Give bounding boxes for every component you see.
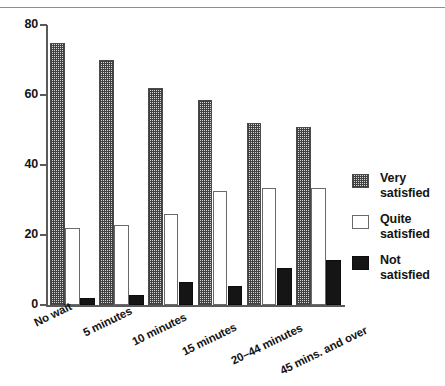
y-axis-tick: [40, 234, 47, 236]
y-axis-label-wrap: 60: [0, 88, 38, 101]
x-axis-tick-label: 10 minutes: [131, 312, 189, 348]
x-axis-tick-label: 5 minutes: [82, 305, 134, 338]
bar-quite-satisfied: [262, 188, 277, 305]
y-axis-tick: [40, 164, 47, 166]
legend-label-line2: satisfied: [380, 227, 430, 242]
bar-very-satisfied: [50, 43, 65, 306]
y-axis-tick: [40, 304, 47, 306]
y-axis-tick: [40, 24, 47, 26]
legend-swatch-not-satisfied: [352, 256, 369, 270]
bar-not-satisfied: [277, 268, 292, 305]
x-axis-tick-label: 15 minutes: [180, 321, 238, 357]
bar-very-satisfied: [198, 100, 213, 305]
bar-very-satisfied: [296, 127, 311, 306]
y-axis-tick-label: 20: [8, 228, 38, 241]
y-axis-tick-label: 60: [8, 88, 38, 101]
legend-label-line2: satisfied: [380, 268, 430, 283]
y-axis-label-wrap: 40: [0, 158, 38, 171]
legend-item-not-satisfied[interactable]: Not satisfied: [352, 254, 442, 286]
bar-quite-satisfied: [213, 191, 228, 305]
legend-label-line1: Not: [380, 253, 430, 268]
legend-swatch-quite-satisfied: [352, 215, 369, 229]
legend-label-line1: Very: [380, 171, 430, 186]
bar-quite-satisfied: [114, 225, 129, 306]
y-axis-tick-label: 40: [8, 158, 38, 171]
legend-swatch-very-satisfied: [352, 174, 369, 188]
bar-not-satisfied: [326, 260, 341, 306]
bar-quite-satisfied: [164, 214, 179, 305]
y-axis-label-wrap: 80: [0, 18, 38, 31]
bar-quite-satisfied: [311, 188, 326, 305]
legend-label-quite-satisfied: Quite satisfied: [380, 212, 430, 241]
legend-item-quite-satisfied[interactable]: Quite satisfied: [352, 213, 442, 245]
y-axis-label-wrap: 20: [0, 228, 38, 241]
y-axis-tick-label: 0: [8, 298, 38, 311]
bar-very-satisfied: [99, 60, 114, 305]
legend-label-line1: Quite: [380, 212, 430, 227]
bar-quite-satisfied: [65, 228, 80, 305]
bar-very-satisfied: [247, 123, 262, 305]
x-axis-line: [46, 305, 345, 307]
legend-label-line2: satisfied: [380, 186, 430, 201]
bar-not-satisfied: [228, 286, 243, 305]
bar-not-satisfied: [179, 282, 194, 305]
y-axis-tick-label: 80: [8, 18, 38, 31]
bar-chart: 020406080 No wait5 minutes10 minutes15 m…: [0, 0, 445, 386]
chart-legend: Very satisfied Quite satisfied Not satis…: [352, 172, 442, 295]
legend-item-very-satisfied[interactable]: Very satisfied: [352, 172, 442, 204]
y-axis-tick: [40, 94, 47, 96]
bar-not-satisfied: [80, 298, 95, 305]
legend-label-not-satisfied: Not satisfied: [380, 253, 430, 282]
y-axis-label-wrap: 0: [0, 298, 38, 311]
bar-very-satisfied: [148, 88, 163, 305]
bar-not-satisfied: [129, 295, 144, 306]
legend-label-very-satisfied: Very satisfied: [380, 171, 430, 200]
